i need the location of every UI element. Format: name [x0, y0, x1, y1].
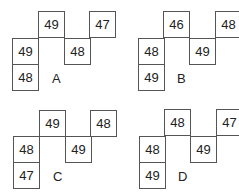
option-b-net: 46 48 48 49 49 B [119, 0, 239, 96]
face-bottom: 49 [138, 64, 165, 91]
option-d-net: 48 47 48 49 49 D [119, 96, 239, 192]
option-label: C [53, 169, 62, 184]
face-top-right: 48 [215, 11, 239, 38]
face-mid-right: 49 [189, 38, 216, 65]
face-top-right: 48 [90, 110, 117, 137]
option-c-net: 49 48 48 49 47 C [0, 96, 120, 192]
option-label: B [177, 71, 186, 86]
face-top-left: 49 [39, 110, 66, 137]
option-label: A [52, 71, 61, 86]
face-top-left: 46 [163, 11, 190, 38]
face-mid-left: 48 [13, 136, 40, 163]
face-top-left: 49 [38, 11, 65, 38]
face-bottom: 47 [13, 162, 40, 189]
face-top-left: 48 [164, 109, 191, 136]
face-top-right: 47 [216, 109, 239, 136]
option-a-net: 49 47 49 48 48 A [0, 0, 120, 96]
face-mid-right: 49 [65, 136, 92, 163]
face-mid-right: 48 [64, 38, 91, 65]
face-mid-right: 49 [190, 136, 217, 163]
face-bottom: 48 [12, 64, 39, 91]
face-top-right: 47 [89, 11, 116, 38]
option-label: D [178, 169, 187, 184]
face-mid-left: 49 [12, 38, 39, 65]
face-mid-left: 48 [138, 38, 165, 65]
face-bottom: 49 [139, 162, 166, 189]
face-mid-left: 48 [139, 136, 166, 163]
